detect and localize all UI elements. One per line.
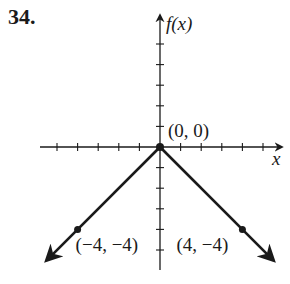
y-axis-label: f(x) <box>166 13 192 35</box>
data-point <box>74 226 81 233</box>
point-label: (0, 0) <box>168 120 209 142</box>
data-point <box>156 143 164 151</box>
graph: xf(x) (0, 0)(−4, −4)(4, −4) <box>0 0 290 284</box>
data-point <box>239 226 246 233</box>
x-axis-label: x <box>271 148 281 169</box>
point-label: (−4, −4) <box>76 234 139 256</box>
point-label: (4, −4) <box>176 234 228 256</box>
